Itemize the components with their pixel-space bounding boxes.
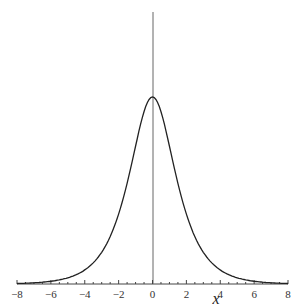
chart: −8−6−4−202468 x (0, 0, 303, 308)
x-tick-label: 8 (285, 288, 291, 300)
x-tick-label: 6 (251, 288, 257, 300)
x-tick-label: −4 (79, 288, 91, 300)
x-ticks: −8−6−4−202468 (11, 280, 291, 300)
x-tick-label: 2 (184, 288, 190, 300)
x-tick-label: −6 (45, 288, 57, 300)
x-tick-label: 0 (150, 288, 156, 300)
x-tick-label: −2 (113, 288, 125, 300)
x-axis-label: x (211, 290, 219, 307)
x-tick-label: −8 (11, 288, 23, 300)
